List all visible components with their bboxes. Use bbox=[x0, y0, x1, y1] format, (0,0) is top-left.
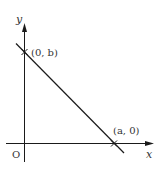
y-axis-label: y bbox=[15, 13, 23, 26]
y-axis-arrow-icon bbox=[22, 23, 27, 32]
x-intercept-label: (a, 0) bbox=[113, 125, 140, 136]
intercept-line bbox=[16, 44, 124, 154]
x-axis-label: x bbox=[146, 148, 153, 161]
line-intercept-diagram: y x O (0, b) (a, 0) bbox=[0, 0, 160, 171]
origin-label: O bbox=[12, 149, 20, 160]
y-intercept-label: (0, b) bbox=[31, 47, 58, 58]
x-axis-arrow-icon bbox=[145, 141, 154, 146]
x-axis bbox=[6, 141, 154, 146]
y-axis bbox=[22, 23, 27, 162]
